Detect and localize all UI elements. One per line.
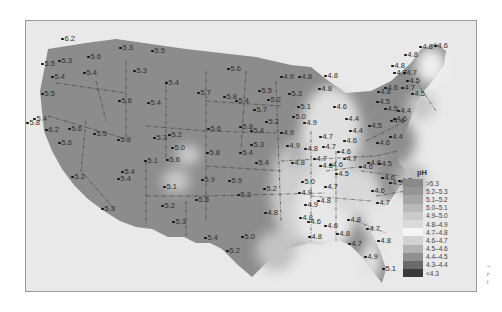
legend-item: 4.4–4.5	[403, 253, 463, 261]
station-dot-icon	[71, 176, 74, 179]
station-dot-icon	[101, 208, 104, 211]
station-dot-icon	[168, 134, 171, 137]
legend-item: 4.6–4.7	[403, 236, 463, 244]
station-ph-value: 5.2	[161, 202, 175, 210]
station-dot-icon	[228, 180, 231, 183]
station-dot-icon	[201, 179, 204, 182]
legend-item: <4.3	[403, 269, 463, 277]
station-dot-icon	[288, 93, 291, 96]
station-ph-value: 4.9	[280, 73, 294, 81]
station-dot-icon	[324, 186, 327, 189]
station-ph-value: 4.7	[348, 240, 362, 248]
station-dot-icon	[280, 132, 283, 135]
legend-label: 4.9–5.0	[426, 212, 448, 219]
station-dot-icon	[147, 102, 150, 105]
legend-swatch	[403, 212, 423, 220]
station-ph-value: 5.0	[301, 178, 315, 186]
station-ph-value: 5.5	[151, 47, 165, 55]
station-dot-icon	[267, 99, 270, 102]
station-ph-value: 4.5	[335, 170, 349, 178]
station-dot-icon	[359, 166, 362, 169]
station-ph-value: 5.4	[204, 234, 218, 242]
ph-legend: pH >5.35.2–5.35.1–5.25.0–5.14.9–5.04.8–4…	[403, 168, 463, 277]
legend-item: 4.7–4.8	[403, 228, 463, 236]
station-dot-icon	[223, 96, 226, 99]
station-ph-value: 5.3	[153, 134, 167, 142]
station-ph-value: 5.8	[117, 136, 131, 144]
station-ph-value: 5.6	[118, 97, 132, 105]
station-dot-icon	[83, 72, 86, 75]
station-ph-value: 5.2	[226, 247, 240, 255]
station-ph-value: 6.2	[61, 35, 75, 43]
side-note-line: –	[487, 262, 490, 270]
station-ph-value: 4.8	[304, 145, 318, 153]
station-ph-value: 4.7	[366, 225, 380, 233]
station-dot-icon	[384, 87, 387, 90]
station-dot-icon	[121, 171, 124, 174]
station-dot-icon	[376, 101, 379, 104]
station-ph-value: 5.6	[87, 53, 101, 61]
legend-title: pH	[417, 168, 463, 177]
station-dot-icon	[239, 126, 242, 129]
station-dot-icon	[144, 160, 147, 163]
station-ph-value: 4.6	[384, 84, 398, 92]
station-dot-icon	[258, 90, 261, 93]
station-dot-icon	[297, 106, 300, 109]
legend-item: >5.3	[403, 179, 463, 187]
station-ph-value: 5.4	[165, 79, 179, 87]
station-dot-icon	[255, 162, 258, 165]
station-dot-icon	[264, 212, 267, 215]
station-dot-icon	[384, 108, 387, 111]
station-dot-icon	[318, 88, 321, 91]
legend-swatch	[403, 195, 423, 203]
station-ph-value: 5.8	[26, 119, 40, 127]
legend-swatch	[403, 204, 423, 212]
station-ph-value: 4.6	[307, 218, 321, 226]
station-dot-icon	[319, 165, 322, 168]
station-ph-value: 4.9	[364, 253, 378, 261]
station-ph-value: 4.8	[318, 85, 332, 93]
station-dot-icon	[250, 144, 253, 147]
side-note-text: –ri	[487, 262, 490, 286]
station-ph-value: 5.5	[93, 130, 107, 138]
legend-item: 4.3–4.4	[403, 261, 463, 269]
station-ph-value: 4.6	[329, 161, 343, 169]
station-ph-value: 4.9	[280, 129, 294, 137]
station-ph-value: 5.9	[201, 176, 215, 184]
legend-item: 5.2–5.3	[403, 187, 463, 195]
station-dot-icon	[118, 100, 121, 103]
station-ph-value: 5.8	[206, 149, 220, 157]
station-ph-value: 4.5	[411, 90, 425, 98]
station-dot-icon	[166, 159, 169, 162]
station-dot-icon	[87, 56, 90, 59]
station-ph-value: 5.9	[228, 177, 242, 185]
station-dot-icon	[153, 137, 156, 140]
station-ph-value: 5.0	[171, 144, 185, 152]
station-ph-value: 4.6	[434, 42, 448, 50]
station-ph-value: 5.7	[197, 89, 211, 97]
station-ph-value: 5.4	[147, 99, 161, 107]
side-note-line: r	[487, 270, 490, 278]
legend-label: 5.0–5.1	[426, 204, 448, 211]
station-ph-value: 5.3	[119, 44, 133, 52]
station-ph-value: 4.6	[343, 137, 357, 145]
station-dot-icon	[280, 76, 283, 79]
station-dot-icon	[349, 130, 352, 133]
station-ph-value: 5.5	[41, 60, 55, 68]
station-dot-icon	[165, 82, 168, 85]
station-ph-value: 5.3	[172, 218, 186, 226]
station-ph-value: 5.1	[297, 103, 311, 111]
station-dot-icon	[377, 240, 380, 243]
station-dot-icon	[227, 68, 230, 71]
station-dot-icon	[347, 219, 350, 222]
station-dot-icon	[291, 162, 294, 165]
station-dot-icon	[381, 177, 384, 180]
station-dot-icon	[329, 164, 332, 167]
station-dot-icon	[298, 76, 301, 79]
station-ph-value: 5.5	[258, 87, 272, 95]
station-dot-icon	[41, 93, 44, 96]
station-dot-icon	[319, 136, 322, 139]
station-dot-icon	[151, 50, 154, 53]
station-dot-icon	[117, 139, 120, 142]
station-ph-value: 5.6	[68, 125, 82, 133]
